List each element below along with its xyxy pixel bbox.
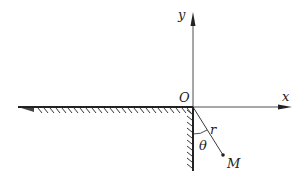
diagram-canvas: y x O r θ M — [0, 0, 304, 181]
radius-label: r — [210, 122, 217, 137]
x-axis-arrow-icon — [278, 105, 292, 110]
point-m-label: M — [226, 156, 241, 171]
horizontal-wall — [18, 107, 193, 113]
point-m-dot — [221, 153, 225, 157]
vertical-wall — [187, 107, 193, 171]
origin-label: O — [179, 90, 190, 105]
x-axis — [193, 105, 292, 110]
y-axis-arrow-icon — [191, 12, 196, 26]
y-axis — [191, 12, 196, 107]
angle-label: θ — [199, 138, 207, 153]
x-axis-label: x — [282, 89, 290, 104]
y-axis-label: y — [177, 7, 186, 22]
angle-arc — [193, 130, 207, 134]
radius-line — [193, 107, 223, 155]
